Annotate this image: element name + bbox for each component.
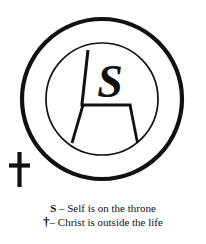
diagram-svg: S bbox=[0, 0, 206, 196]
self-directed-life-diagram: S S – Self is on the throne †– Christ is… bbox=[0, 0, 206, 244]
legend-line-self: S – Self is on the throne bbox=[0, 196, 206, 215]
legend-text-christ: Christ is outside the life bbox=[58, 216, 163, 228]
legend: S – Self is on the throne †– Christ is o… bbox=[0, 196, 206, 244]
throne-self-letter: S bbox=[97, 56, 123, 107]
legend-text-self: Self is on the throne bbox=[67, 202, 156, 214]
legend-dash-2: – bbox=[50, 216, 58, 228]
figure-area: S bbox=[0, 0, 206, 196]
cross-vertical-bar bbox=[17, 152, 21, 187]
legend-line-christ: †– Christ is outside the life bbox=[0, 215, 206, 229]
cross-horizontal-bar bbox=[9, 163, 30, 167]
legend-dash-1: – bbox=[56, 202, 67, 214]
throne-back-post bbox=[82, 50, 88, 104]
throne-right-leg bbox=[130, 105, 138, 143]
throne-left-leg bbox=[72, 105, 83, 143]
